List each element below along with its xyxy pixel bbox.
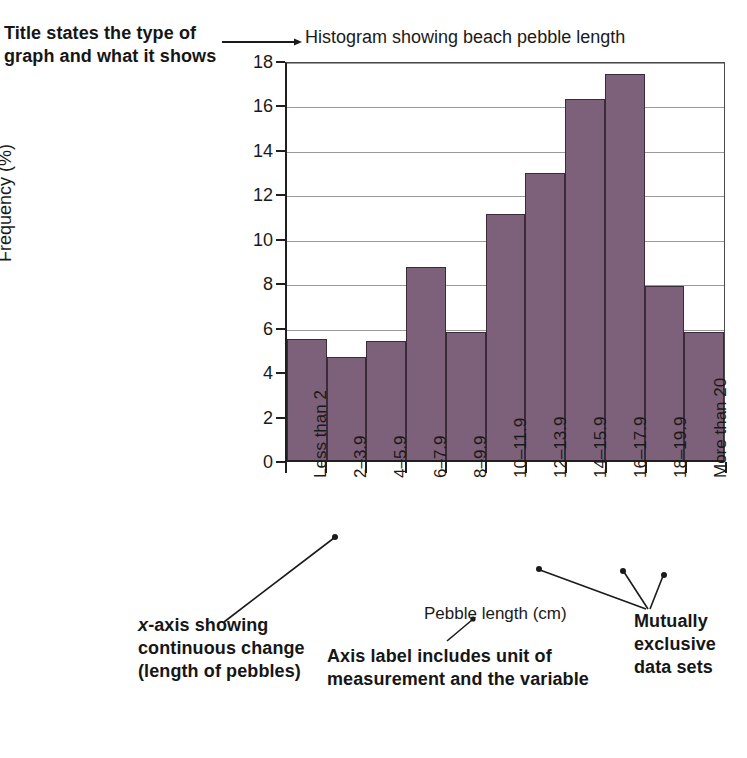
- x-axis-tick-label: 6–7.9: [431, 435, 451, 478]
- chart-title: Histogram showing beach pebble length: [305, 27, 625, 48]
- leader-line-xaxis-note: [224, 538, 334, 622]
- figure-container: Title states the type of graph and what …: [0, 0, 747, 758]
- leader-dot-mutual-3: [661, 572, 667, 578]
- x-axis-tick-label: Less than 2: [311, 390, 331, 478]
- x-axis-tick-label: 16–17.9: [631, 417, 651, 478]
- y-axis-tick-mark: [276, 105, 285, 107]
- x-axis-tick-label: 2–3.9: [351, 435, 371, 478]
- x-axis-tick-label: More than 20: [711, 378, 731, 478]
- y-axis-tick-label: 12: [233, 185, 273, 206]
- y-axis-tick-mark: [276, 417, 285, 419]
- annotation-mutually-exclusive-note: Mutually exclusive data sets: [634, 610, 746, 679]
- y-axis-tick-mark: [276, 461, 285, 463]
- bar-series: [287, 63, 724, 460]
- y-axis-label: Frequency (%): [0, 144, 16, 262]
- y-axis-tick-mark: [276, 61, 285, 63]
- leader-dot-mutual-2: [620, 568, 626, 574]
- leader-line-mutual-3: [650, 576, 663, 609]
- x-axis-label: Pebble length (cm): [424, 604, 567, 624]
- y-axis-tick-mark: [276, 150, 285, 152]
- annotation-xaxis-note: x-axis showing continuous change (length…: [138, 614, 318, 683]
- bar: [406, 267, 446, 460]
- x-axis-tick-label: 4–5.9: [391, 435, 411, 478]
- y-axis-tick-label: 14: [233, 140, 273, 161]
- y-axis-tick-label: 10: [233, 229, 273, 250]
- x-axis-tick-label: 12–13.9: [551, 417, 571, 478]
- plot-area: [285, 62, 725, 462]
- x-axis-tick-mark: [285, 462, 287, 473]
- y-axis-tick-label: 8: [233, 274, 273, 295]
- y-axis-tick-label: 2: [233, 407, 273, 428]
- y-axis-tick-mark: [276, 372, 285, 374]
- annotation-xaxis-note-italic-x: x: [138, 615, 148, 635]
- y-axis-tick-mark: [276, 328, 285, 330]
- x-axis-tick-label: 10–11.9: [511, 418, 531, 478]
- y-axis-tick-label: 18: [233, 52, 273, 73]
- leader-arrowhead-title: [294, 39, 302, 46]
- bar: [605, 74, 645, 460]
- annotation-title-note: Title states the type of graph and what …: [4, 22, 219, 68]
- bar: [565, 99, 605, 460]
- y-axis-tick-mark: [276, 194, 285, 196]
- y-axis-tick-label: 16: [233, 96, 273, 117]
- annotation-xaxis-note-rest: -axis showing continuous change (length …: [138, 615, 305, 681]
- leader-dot-xaxis-note: [332, 534, 338, 540]
- leader-dot-mutual-1: [536, 566, 542, 572]
- x-axis-tick-label: 8–9.9: [471, 435, 491, 478]
- x-axis-tick-label: 18–19.9: [671, 417, 691, 478]
- y-axis-tick-label: 6: [233, 318, 273, 339]
- leader-line-mutual-2: [624, 572, 648, 609]
- y-axis-tick-label: 0: [233, 452, 273, 473]
- y-axis-tick-mark: [276, 283, 285, 285]
- y-axis-tick-label: 4: [233, 363, 273, 384]
- x-axis-tick-label: 14–15.9: [591, 417, 611, 478]
- y-axis-tick-mark: [276, 239, 285, 241]
- annotation-axis-label-note: Axis label includes unit of measurement …: [327, 645, 617, 691]
